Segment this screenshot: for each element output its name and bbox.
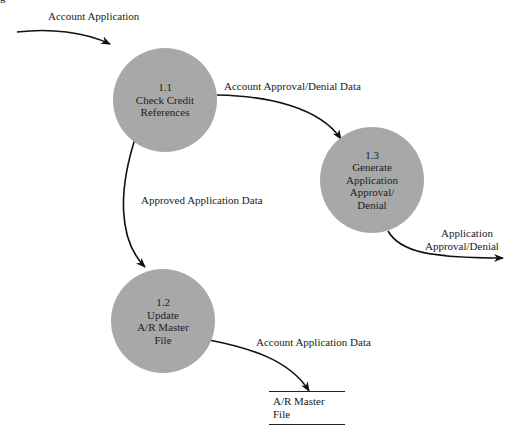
- data-store-ar-master-file: A/R Master File: [269, 391, 345, 425]
- flow-label-application-approval-denial: Application Approval/Denial: [425, 227, 499, 253]
- process-line: Generate: [352, 161, 392, 174]
- flow-label-account-application-data: Account Application Data: [256, 336, 371, 349]
- process-line: Check Credit: [136, 94, 194, 107]
- process-number: 1.3: [365, 149, 379, 162]
- corner-fragment: g: [0, 0, 6, 4]
- process-1-1: 1.1 Check Credit References: [113, 48, 217, 152]
- process-1-2: 1.2 Update A/R Master File: [111, 269, 215, 373]
- flow-label-approved-application-data: Approved Application Data: [141, 194, 263, 207]
- flow-approval-denial-data: [217, 95, 341, 139]
- flow-label-line: Application: [425, 227, 499, 240]
- process-number: 1.1: [158, 81, 172, 94]
- flow-label-approval-denial-data: Account Approval/Denial Data: [224, 80, 361, 93]
- process-1-3: 1.3 Generate Application Approval/ Denia…: [320, 127, 424, 233]
- process-line: Update: [147, 309, 179, 322]
- data-store-label: A/R Master File: [273, 395, 325, 420]
- flow-account-application: [17, 31, 110, 45]
- process-number: 1.2: [156, 296, 170, 309]
- process-line: Approval/: [350, 186, 395, 199]
- process-line: Application: [346, 174, 398, 187]
- process-line: References: [141, 106, 190, 119]
- data-flow-diagram: g Account Application Account Approval/D…: [0, 0, 517, 428]
- flow-label-line: Approval/Denial: [425, 240, 499, 253]
- flow-arrows: [0, 0, 517, 428]
- process-line: File: [154, 334, 171, 347]
- process-line: Denial: [357, 199, 386, 212]
- process-line: A/R Master: [137, 321, 189, 334]
- flow-label-account-application: Account Application: [48, 10, 139, 23]
